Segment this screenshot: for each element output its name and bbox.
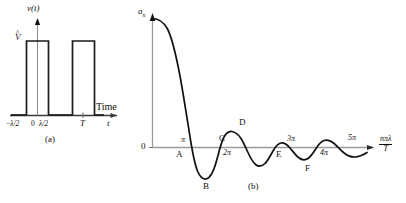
amplitude-hat-accent: ^ [16, 30, 20, 38]
panel-b-y-axis-label: an [138, 7, 146, 18]
panel-b-point-label-f: F [305, 164, 310, 173]
figure-container: v(t) ^ V −λ/2 0 λ/2 T Time t (a) an 0 π … [0, 0, 406, 203]
panel-b-xtick-4pi: 4π [320, 149, 328, 157]
pulse-waveform-second [73, 41, 95, 115]
panel-b-xtick-3pi: 3π [287, 135, 295, 143]
panel-a-xtick-period-T: T [80, 119, 85, 128]
panel-a-y-axis-label: v(t) [27, 4, 40, 13]
panel-b-caption: (b) [248, 182, 259, 191]
panel-a-xtick-zero: 0 [31, 120, 35, 128]
panel-b-point-label-a: A [176, 150, 183, 159]
panel-b-x-axis-label: nπλ T [379, 135, 392, 153]
panel-b-point-label-b: B [203, 182, 209, 191]
panel-a-x-axis-variable-label: t [107, 119, 110, 128]
panel-a-amplitude-label: ^ V [15, 33, 21, 42]
panel-b-point-label-d: D [239, 118, 246, 127]
panel-b-y-axis-arrowhead [150, 13, 156, 21]
panel-a-xtick-half-lambda: λ/2 [39, 120, 48, 128]
panel-b-xtick-5pi: 5π [348, 134, 356, 142]
figure-svg [0, 0, 406, 203]
panel-a-caption: (a) [45, 135, 55, 144]
panel-a-xtick-neg-half-lambda: −λ/2 [6, 120, 19, 128]
sinc-curve [153, 19, 368, 180]
panel-a-x-axis-arrowhead [111, 113, 118, 118]
panel-b-xtick-pi: π [181, 136, 185, 144]
panel-b-x-axis-arrowhead [367, 145, 374, 150]
panel-b-point-label-e: E [276, 150, 282, 159]
panel-a-x-axis-word-label: Time [96, 102, 117, 112]
panel-b-origin-label: 0 [141, 142, 146, 151]
x-axis-label-denominator: T [379, 145, 392, 154]
panel-b-xtick-2pi: 2π [223, 149, 231, 157]
panel-a-y-axis-arrowhead [35, 18, 40, 25]
panel-b-point-label-c: C [219, 134, 225, 143]
